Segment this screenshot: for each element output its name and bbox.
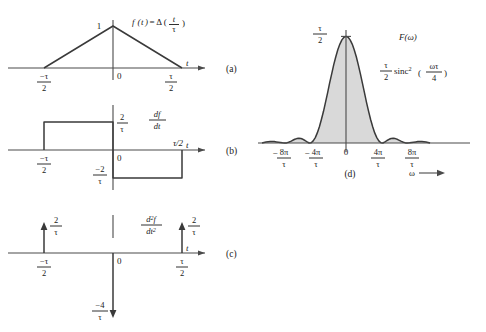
panel-c-impulse-right-label: 2 τ — [188, 215, 200, 237]
panel-d-tick--8pi-numerator: 8π — [280, 147, 289, 157]
panel-b-t-axis-arrowhead — [198, 147, 205, 152]
panel-c-tick-left-denominator: 2 — [42, 268, 46, 278]
panel-b-origin-label: 0 — [117, 153, 122, 163]
panel-d-formula-paren-close: ) — [444, 68, 447, 78]
panel-a-function-frac-numerator: t — [173, 14, 176, 24]
panel-c-tick-left: −τ 2 — [37, 256, 51, 278]
panel-c-function-denominator: dt2 — [146, 226, 156, 236]
panel-c-t-axis-arrowhead — [198, 250, 205, 255]
panel-b-level-positive-label: 2 τ — [117, 112, 128, 134]
panel-a-function-equals-delta: = Δ ( — [150, 17, 167, 27]
panel-d-axis-label-group: ω — [409, 168, 445, 178]
panel-a-function-arg: t — [141, 17, 144, 27]
panel-d-formula-sinc: sinc2 — [394, 65, 412, 76]
panel-c-impulse-left-denominator: τ — [54, 227, 58, 237]
panel-c-impulse-right-arrowhead — [179, 222, 186, 230]
panel-a-origin-label: 0 — [117, 71, 122, 81]
panel-d-peak-numerator: τ — [318, 23, 322, 33]
panel-c-impulse-center — [110, 253, 117, 318]
panel-d-origin-label: 0 — [344, 147, 349, 157]
panel-d: τ 2 F(ω) τ 2 sinc2 ( ωτ 4 ) — [258, 23, 470, 180]
panel-c-impulse-left-arrowhead — [41, 222, 48, 230]
panel-c-tick-right: τ 2 — [176, 256, 188, 278]
panel-d-formula-tau-numerator: τ — [384, 60, 388, 70]
panel-a-tick-left-numerator: −τ — [40, 71, 49, 81]
panel-c-function-numerator: d2f — [146, 214, 157, 224]
panel-a-tick-right-numerator: τ — [169, 71, 173, 81]
panel-d-tick-4pi-denominator: τ — [376, 159, 380, 169]
panel-c-impulse-center-label: −4 τ — [92, 300, 108, 322]
panel-a-tick-right-denominator: 2 — [169, 83, 173, 93]
panel-c-impulse-left-label: 2 τ — [50, 215, 62, 237]
panel-c: 2 τ 2 τ −4 τ d2f — [8, 214, 237, 322]
panel-b-tick-left: −τ 2 — [37, 153, 51, 175]
panel-b: 2 τ −2 τ df dt 0 τ/2 t — [8, 105, 237, 190]
panel-d-tick-4pi-over-tau: 4π τ — [371, 147, 385, 169]
panel-a-function-f: f — [132, 17, 136, 27]
panel-c-impulse-right-numerator: 2 — [192, 215, 196, 225]
panel-c-tag: (c) — [226, 249, 237, 260]
panel-c-function-expression: d2f dt2 — [141, 214, 162, 236]
panel-c-impulse-center-denominator: τ — [98, 312, 102, 322]
panel-b-right-edge-label: τ/2 — [173, 138, 184, 148]
panel-d-tick-8pi-numerator: 8π — [408, 147, 417, 157]
panel-b-function-denominator: dt — [154, 121, 161, 131]
panel-b-level-negative-numerator: −2 — [95, 164, 104, 174]
panel-b-function-expression: df dt — [149, 109, 166, 131]
panel-a-axis-label: t — [186, 58, 189, 68]
panel-c-impulse-right-denominator: τ — [192, 227, 196, 237]
panel-b-tick-left-denominator: 2 — [42, 165, 46, 175]
panel-d-axis-label: ω — [409, 168, 415, 178]
panel-c-impulse-center-arrowhead — [110, 310, 117, 318]
panel-d-peak-denominator: 2 — [318, 35, 322, 45]
panel-d-tick--4pi-sign: − — [304, 148, 309, 158]
panel-a-tick-right: τ 2 — [165, 71, 177, 93]
panel-a-tag: (a) — [226, 64, 237, 75]
panel-d-axis-arrowhead — [437, 170, 445, 176]
panel-d-tick--4pi-denominator: τ — [314, 159, 318, 169]
panel-b-axis-label: t — [186, 140, 189, 150]
panel-c-tick-left-numerator: −τ — [40, 256, 49, 266]
panel-c-impulse-left-numerator: 2 — [54, 215, 58, 225]
panel-d-formula-tau-denominator: 2 — [384, 72, 388, 82]
figure-svg: 1 0 t −τ 2 τ 2 f ( t ) — [0, 0, 486, 332]
panel-b-tag: (b) — [226, 146, 237, 157]
panel-d-tick--4pi-over-tau: − 4π τ — [304, 147, 323, 169]
panel-c-impulse-center-numerator: −4 — [95, 300, 105, 310]
panel-c-tick-right-denominator: 2 — [180, 268, 184, 278]
panel-c-axis-label: t — [186, 243, 189, 253]
panel-d-tick--4pi-numerator: 4π — [312, 147, 321, 157]
panel-a-tick-left-denominator: 2 — [42, 83, 46, 93]
panel-a-t-axis-arrowhead — [198, 65, 205, 70]
panel-c-impulse-right — [179, 222, 186, 253]
panel-c-impulse-left — [41, 222, 48, 253]
panel-d-tick--8pi-sign: − — [272, 148, 277, 158]
panel-a-peak-label: 1 — [97, 21, 102, 31]
panel-a-function-expression: f ( t ) = Δ ( t τ ) — [132, 14, 185, 34]
panel-a-tick-left: −τ 2 — [37, 71, 51, 93]
panel-a: 1 0 t −τ 2 τ 2 f ( t ) — [8, 14, 237, 93]
panel-c-origin-label: 0 — [117, 256, 122, 266]
panel-d-tick--8pi-denominator: τ — [282, 159, 286, 169]
panel-c-tick-right-numerator: τ — [180, 256, 184, 266]
figure-root: 1 0 t −τ 2 τ 2 f ( t ) — [0, 0, 486, 332]
panel-d-formula-paren-open: ( — [418, 68, 421, 78]
panel-d-formula: τ 2 sinc2 ( ωτ 4 ) — [380, 60, 447, 83]
panel-b-function-numerator: df — [154, 109, 162, 119]
panel-a-function-frac-denominator: τ — [172, 24, 176, 34]
panel-a-function-paren-close: ) — [144, 17, 148, 27]
panel-d-tick-4pi-numerator: 4π — [374, 147, 383, 157]
panel-b-level-negative-label: −2 τ — [93, 164, 107, 186]
panel-b-tick-left-numerator: −τ — [40, 153, 49, 163]
panel-a-function-paren-close-outer: ) — [182, 18, 185, 28]
panel-d-tick--8pi-over-tau: − 8π τ — [272, 147, 291, 169]
panel-b-level-positive-numerator: 2 — [120, 112, 124, 122]
panel-d-tick-8pi-over-tau: 8π τ — [405, 147, 419, 169]
panel-d-formula-arg-denominator: 4 — [432, 73, 437, 83]
panel-b-level-negative-denominator: τ — [98, 176, 102, 186]
panel-d-function-label: F(ω) — [398, 32, 417, 42]
panel-b-level-positive-denominator: τ — [120, 124, 124, 134]
panel-d-formula-arg-numerator: ωτ — [429, 61, 439, 71]
panel-d-peak-label: τ 2 — [313, 23, 327, 45]
panel-d-tag: (d) — [344, 169, 355, 180]
